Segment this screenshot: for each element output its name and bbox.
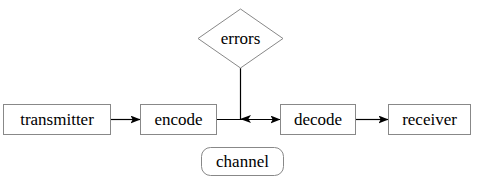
node-label-channel: channel bbox=[201, 147, 284, 176]
node-label-errors: errors bbox=[198, 23, 283, 54]
node-label-transmitter: transmitter bbox=[3, 104, 111, 135]
node-label-encode: encode bbox=[140, 104, 217, 135]
diagram-canvas: transmitter encode decode receiver error… bbox=[0, 0, 477, 184]
node-label-decode: decode bbox=[280, 104, 356, 135]
node-label-receiver: receiver bbox=[388, 104, 471, 135]
